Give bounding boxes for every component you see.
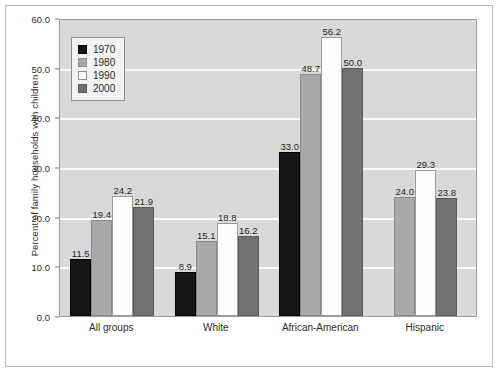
bar-1990-all-groups bbox=[112, 196, 133, 316]
bar-value-label: 15.1 bbox=[197, 230, 216, 241]
legend-item-1980: 1980 bbox=[78, 56, 115, 69]
y-axis-tick-label: 60.0 bbox=[4, 14, 50, 25]
bar-1990-hispanic bbox=[415, 170, 436, 316]
bar-1970-white bbox=[175, 272, 196, 316]
y-axis-tick-label: 10.0 bbox=[4, 262, 50, 273]
bar-value-label: 23.8 bbox=[438, 187, 457, 198]
bar-1980-white bbox=[196, 241, 217, 316]
legend-item-1990: 1990 bbox=[78, 69, 115, 82]
y-axis: 0.010.020.030.040.050.060.0 bbox=[4, 19, 59, 317]
bar-value-label: 56.2 bbox=[323, 26, 342, 37]
bar-value-label: 11.5 bbox=[72, 248, 90, 259]
legend-item-label: 2000 bbox=[93, 83, 115, 94]
bar-value-label: 50.0 bbox=[344, 57, 363, 68]
legend-swatch-icon bbox=[78, 84, 87, 93]
legend-swatch-icon bbox=[78, 58, 87, 67]
bar-1980-african-american bbox=[300, 74, 321, 316]
bar-2000-white bbox=[238, 236, 259, 316]
legend-item-1970: 1970 bbox=[78, 43, 115, 56]
bar-2000-hispanic bbox=[436, 198, 457, 316]
bar-1970-all-groups bbox=[70, 259, 91, 316]
bar-2000-all-groups bbox=[133, 207, 154, 316]
legend-item-2000: 2000 bbox=[78, 82, 115, 95]
bar-value-label: 8.9 bbox=[179, 261, 192, 272]
y-axis-tick-label: 20.0 bbox=[4, 212, 50, 223]
bar-value-label: 16.2 bbox=[239, 225, 258, 236]
y-axis-tick-label: 40.0 bbox=[4, 113, 50, 124]
y-axis-tick-label: 0.0 bbox=[4, 312, 50, 323]
bar-value-label: 21.9 bbox=[135, 196, 154, 207]
bar-value-label: 29.3 bbox=[417, 159, 436, 170]
x-axis-label-all-groups: All groups bbox=[89, 322, 133, 333]
bar-value-label: 19.4 bbox=[93, 209, 112, 220]
x-axis-label-african-american: African-American bbox=[282, 322, 359, 333]
chart-figure: Percent of family households with childr… bbox=[0, 0, 500, 377]
x-axis-label-white: White bbox=[203, 322, 229, 333]
bar-1990-white bbox=[217, 223, 238, 316]
legend-item-label: 1980 bbox=[93, 57, 115, 68]
chart-legend: 1970198019902000 bbox=[71, 37, 125, 101]
legend-item-label: 1990 bbox=[93, 70, 115, 81]
legend-swatch-icon bbox=[78, 71, 87, 80]
x-axis-label-hispanic: Hispanic bbox=[406, 322, 444, 333]
bar-value-label: 48.7 bbox=[302, 63, 321, 74]
bar-1990-african-american bbox=[321, 37, 342, 316]
bar-1980-hispanic bbox=[394, 197, 415, 316]
bar-value-label: 33.0 bbox=[281, 141, 300, 152]
bar-2000-african-american bbox=[342, 68, 363, 316]
bar-1970-african-american bbox=[279, 152, 300, 316]
bar-value-label: 24.0 bbox=[396, 186, 415, 197]
y-axis-tick-label: 50.0 bbox=[4, 63, 50, 74]
legend-swatch-icon bbox=[78, 45, 87, 54]
bar-value-label: 18.8 bbox=[218, 212, 237, 223]
y-axis-tick-label: 30.0 bbox=[4, 163, 50, 174]
bar-1980-all-groups bbox=[91, 220, 112, 316]
legend-item-label: 1970 bbox=[93, 44, 115, 55]
bar-value-label: 24.2 bbox=[114, 185, 133, 196]
